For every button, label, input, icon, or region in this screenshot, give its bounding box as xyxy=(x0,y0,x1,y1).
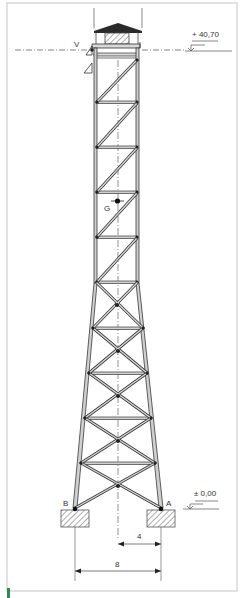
support-a-label: A xyxy=(166,500,171,508)
dim-full-base-label: 8 xyxy=(115,561,119,569)
footing-a xyxy=(147,510,175,527)
support-node-a xyxy=(159,507,164,512)
dim-half-base-label: 4 xyxy=(137,533,141,541)
ground-level-label: ± 0,00 xyxy=(194,490,216,498)
support-b-label: B xyxy=(63,500,68,508)
footing-b xyxy=(61,510,89,527)
tower-drawing xyxy=(0,0,244,598)
dimension-half-base xyxy=(118,542,161,547)
support-node-b xyxy=(73,507,78,512)
cabin-roof xyxy=(94,23,142,31)
platform-deck xyxy=(92,44,140,48)
top-level-label: + 40,70 xyxy=(192,31,219,39)
cabin-window xyxy=(105,33,129,44)
dimension-full-base xyxy=(75,569,161,574)
center-of-gravity-marker xyxy=(111,198,124,203)
point-v-label: V xyxy=(74,41,79,49)
upper-horizontals xyxy=(96,101,137,284)
point-g-label: G xyxy=(104,205,110,213)
accent-bar xyxy=(7,588,10,598)
